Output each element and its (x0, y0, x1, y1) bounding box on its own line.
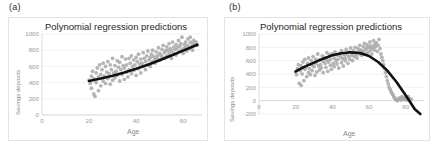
panel-a-tag: (a) (9, 2, 21, 12)
x-tick-label: 40 (329, 103, 336, 110)
x-tick-label: 60 (180, 117, 187, 124)
y-tick-label: 800 (246, 44, 257, 51)
y-tick-label: 600 (29, 63, 40, 70)
y-tick-label: 200 (29, 95, 40, 102)
panel-b-tag: (b) (229, 2, 241, 12)
panel-a-chart-box: Polynomial regression predictions Saving… (8, 17, 208, 141)
x-tick-label: 0 (40, 117, 44, 124)
y-tick-label: 600 (246, 57, 257, 64)
x-tick-label: 0 (257, 103, 261, 110)
x-tick-label: 20 (292, 103, 299, 110)
y-tick-label: 800 (29, 46, 40, 53)
y-tick-label: -200 (244, 110, 257, 117)
figure: (a) Polynomial regression predictions Sa… (0, 0, 439, 150)
panel-b: (b) Polynomial regression predictions Sa… (220, 0, 434, 150)
y-tick-label: 1000 (242, 30, 256, 37)
panel-a-plot-area: 020040060080010000204060 (9, 18, 208, 141)
panel-b-plot-svg: -20002004006008001000020406080 (225, 18, 430, 141)
x-tick-label: 20 (86, 117, 93, 124)
x-tick-label: 60 (366, 103, 373, 110)
x-tick-label: 80 (402, 103, 409, 110)
y-tick-label: 400 (246, 70, 257, 77)
x-tick-label: 40 (133, 117, 140, 124)
y-tick-label: 400 (29, 79, 40, 86)
y-tick-label: 0 (253, 97, 257, 104)
y-tick-label: 1000 (25, 30, 39, 37)
panel-a: (a) Polynomial regression predictions Sa… (0, 0, 214, 150)
y-tick-label: 0 (36, 111, 40, 118)
panel-a-plot-svg: 020040060080010000204060 (9, 18, 208, 141)
panel-b-chart-box: Polynomial regression predictions Saving… (224, 17, 430, 141)
y-tick-label: 200 (246, 84, 257, 91)
panel-b-plot-area: -20002004006008001000020406080 (225, 18, 430, 141)
